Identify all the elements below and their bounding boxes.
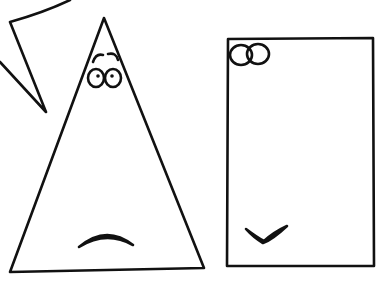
speech-bubble [0,0,70,112]
triangle-left-pupil [96,74,100,78]
triangle-right-pupil [110,74,114,78]
rectangle-smirk [246,226,287,243]
triangle-right-eye [105,69,121,87]
rectangle-character [227,38,374,266]
triangle-frown [79,235,133,247]
triangle-left-eye [88,69,104,87]
rectangle-right-eye [247,44,269,64]
illustration-canvas [0,0,382,298]
triangle-left-eyebrow [93,55,103,62]
triangle-character [10,18,204,272]
triangle-right-eyebrow [108,54,118,60]
